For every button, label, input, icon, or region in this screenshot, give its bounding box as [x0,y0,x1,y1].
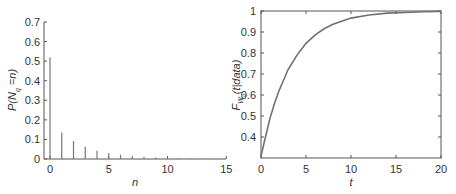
pmf-chart: 00.10.20.30.40.50.60.7 051015 n P(Nq =n) [6,16,232,188]
x-tick-label: 10 [345,163,357,175]
y-tick-label: 0.6 [25,36,40,48]
y-tick-label: 0.7 [241,68,256,80]
y-tick-label: 0.4 [241,131,256,143]
bars [50,57,215,159]
x-tick-label: 15 [390,163,402,175]
x-axis-label: t [349,176,353,188]
y-tick-label: 0.4 [25,75,40,87]
y-tick-label: 0.5 [25,55,40,67]
y-tick-label: 1 [250,5,256,17]
y-tick-label: 0 [34,153,40,165]
x-tick-label: 5 [303,163,309,175]
x-tick-label: 15 [220,163,232,175]
x-tick-label: 5 [106,163,112,175]
y-axis-label: FWq(t|data) [230,59,247,110]
x-tick-label: 0 [258,163,264,175]
y-tick-label: 0.1 [25,133,40,145]
x-tick-label: 10 [161,163,173,175]
x-ticks: 05101520 [258,11,447,175]
y-ticks: 0.40.50.60.70.80.91 [241,5,441,143]
y-axis-label: P(Nq =n) [6,69,22,111]
y-tick-label: 0.2 [25,114,40,126]
y-tick-label: 0.5 [241,110,256,122]
x-tick-label: 0 [47,163,53,175]
cdf-line [261,11,441,156]
y-tick-label: 0.9 [241,26,256,38]
figure: 00.10.20.30.40.50.60.7 051015 n P(Nq =n)… [0,0,456,194]
y-tick-label: 0.3 [25,94,40,106]
x-tick-label: 20 [435,163,447,175]
cdf-chart: 0.40.50.60.70.80.91 05101520 t FWq(t|dat… [230,5,447,188]
y-tick-label: 0.7 [25,16,40,28]
plot-box [261,11,441,158]
y-tick-label: 0.8 [241,47,256,59]
x-axis-label: n [132,176,138,188]
